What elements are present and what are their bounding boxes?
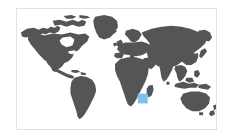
land-sri-lanka bbox=[166, 82, 169, 85]
world-map-widget: World map with highlighted region in the… bbox=[0, 0, 234, 139]
land-korea bbox=[195, 53, 198, 57]
land-tasmania bbox=[199, 112, 203, 115]
highlight-region-marker[interactable] bbox=[138, 94, 148, 104]
map-alt-text: World map with highlighted region in the… bbox=[0, 0, 1, 1]
world-map-graphic bbox=[17, 9, 216, 129]
map-frame[interactable] bbox=[16, 8, 217, 130]
